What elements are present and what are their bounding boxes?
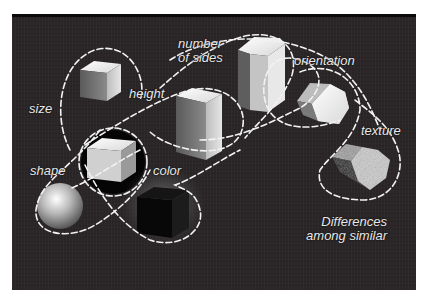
label-number-of-sides-line2: of sides — [178, 51, 223, 64]
reference-cube-object — [87, 138, 136, 182]
textured-hexagonal-prism-object — [332, 144, 390, 190]
label-shape: shape — [30, 164, 65, 177]
label-size: size — [29, 102, 52, 115]
label-number-of-sides-line1: number — [178, 37, 222, 50]
label-height: height — [129, 87, 164, 100]
label-orientation: orientation — [294, 54, 355, 67]
caption-line2: among similar — [306, 229, 387, 242]
caption-line1: Differences — [321, 215, 387, 228]
small-cube-object — [80, 61, 121, 101]
rotated-hexagonal-prism-object — [297, 83, 349, 124]
black-cube-object — [137, 187, 189, 238]
label-color: color — [153, 164, 181, 177]
hexagonal-prism-object — [238, 37, 285, 112]
tall-box-object — [176, 88, 222, 160]
label-texture: texture — [361, 124, 401, 137]
